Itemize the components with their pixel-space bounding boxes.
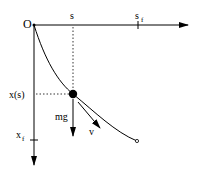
xf-subscript: f xyxy=(22,135,25,143)
mass-ball xyxy=(69,90,77,98)
brachistochrone-diagram: O s s f x(s) x f mg v xyxy=(0,0,197,171)
brachistochrone-curve xyxy=(34,25,137,141)
velocity-arrow xyxy=(78,102,100,128)
sf-subscript: f xyxy=(141,16,144,24)
mg-label: mg xyxy=(55,111,68,122)
curve-end-point xyxy=(135,139,138,142)
origin-label: O xyxy=(23,17,32,31)
s-label: s xyxy=(70,10,74,21)
sf-label: s xyxy=(135,10,139,21)
v-label: v xyxy=(89,126,94,137)
xf-label: x xyxy=(16,129,21,140)
xs-label: x(s) xyxy=(9,89,25,101)
